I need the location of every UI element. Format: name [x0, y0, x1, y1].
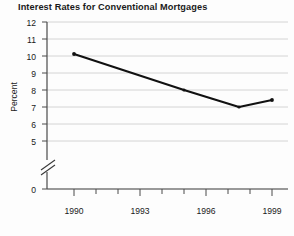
data-point-1999	[270, 98, 274, 102]
plot-area	[0, 0, 294, 236]
data-line-interest-rate	[74, 54, 272, 107]
chart-figure: Interest Rates for Conventional Mortgage…	[0, 0, 294, 236]
x-tick-marks	[74, 189, 272, 196]
data-point-1995	[182, 88, 185, 91]
gridlines	[47, 22, 288, 189]
y-axis-break-icon	[41, 160, 55, 175]
data-point-1998	[237, 105, 240, 108]
data-point-markers	[72, 52, 274, 109]
data-point-1990	[72, 52, 76, 56]
y-tick-marks	[42, 22, 47, 189]
